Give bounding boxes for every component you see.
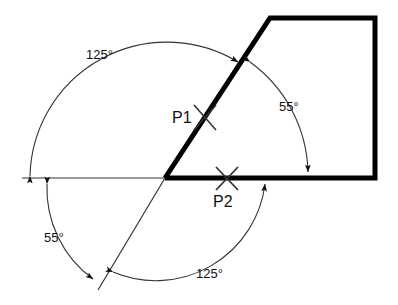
diagram-canvas: 125° 55° 55° 125° P1 P2 [0,0,398,305]
technical-drawing-diagram: 125° 55° 55° 125° P1 P2 [0,0,398,305]
point-label-p2: P2 [213,193,233,210]
angle-label-55-lower-left: 55° [44,230,64,245]
angle-label-125-lower-right: 125° [196,266,223,281]
angle-label-125-upper-left: 125° [86,47,113,62]
angle-label-55-right: 55° [279,99,299,114]
point-label-p1: P1 [172,109,192,126]
